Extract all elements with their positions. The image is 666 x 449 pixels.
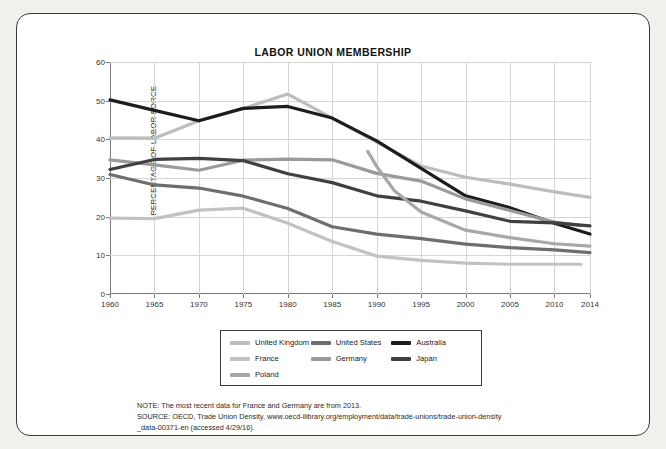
- series-line: [110, 94, 590, 197]
- x-tick-label: 2014: [581, 300, 599, 309]
- y-tick-label: 20: [96, 212, 105, 221]
- legend-color-swatch: [230, 357, 250, 361]
- x-tick-mark: [377, 294, 378, 298]
- x-tick-mark: [554, 294, 555, 298]
- chart-title: LABOR UNION MEMBERSHIP: [17, 46, 649, 58]
- x-tick-label: 1990: [368, 300, 386, 309]
- legend-item[interactable]: Japan: [391, 354, 472, 363]
- legend-item-label: Australia: [416, 338, 446, 347]
- y-tick-label: 30: [96, 174, 105, 183]
- x-tick-label: 2005: [501, 300, 519, 309]
- y-tick-label: 60: [96, 58, 105, 67]
- x-tick-mark: [154, 294, 155, 298]
- legend-item[interactable]: Germany: [311, 354, 392, 363]
- x-tick-mark: [110, 294, 111, 298]
- legend-item[interactable]: Poland: [230, 370, 311, 379]
- legend-color-swatch: [391, 357, 411, 361]
- x-tick-label: 1965: [146, 300, 164, 309]
- chart-notes: NOTE: The most recent data for France an…: [137, 401, 607, 433]
- x-tick-label: 1970: [190, 300, 208, 309]
- x-tick-mark: [421, 294, 422, 298]
- legend-color-swatch: [311, 357, 331, 361]
- legend-item-label: Japan: [416, 354, 437, 363]
- legend-item-label: United States: [336, 338, 382, 347]
- x-tick-mark: [288, 294, 289, 298]
- series-line: [110, 159, 581, 226]
- x-tick-label: 1960: [101, 300, 119, 309]
- chart-card: LABOR UNION MEMBERSHIP PERCENTAGE OF LAB…: [16, 13, 650, 436]
- x-tick-mark: [332, 294, 333, 298]
- legend-item[interactable]: France: [230, 354, 311, 363]
- y-tick-label: 50: [96, 96, 105, 105]
- x-tick-mark: [510, 294, 511, 298]
- chart-legend: United KingdomUnited StatesAustraliaFran…: [220, 330, 482, 386]
- gridline-vertical: [590, 62, 591, 294]
- x-tick-label: 1975: [234, 300, 252, 309]
- x-tick-mark: [590, 294, 591, 298]
- x-tick-label: 2000: [457, 300, 475, 309]
- legend-color-swatch: [230, 373, 250, 377]
- legend-color-swatch: [391, 341, 411, 345]
- x-tick-label: 1985: [323, 300, 341, 309]
- chart-plot-area: PERCENTAGE OF LABOR FORCE 01020304050601…: [110, 62, 590, 294]
- legend-items: United KingdomUnited StatesAustraliaFran…: [230, 338, 472, 386]
- x-tick-mark: [199, 294, 200, 298]
- x-tick-label: 1995: [412, 300, 430, 309]
- y-tick-label: 10: [96, 251, 105, 260]
- legend-color-swatch: [230, 341, 250, 345]
- x-tick-label: 2010: [546, 300, 564, 309]
- source-line-continued: _data-00371-en (accessed 4/29/16).: [137, 423, 607, 434]
- page-root: LABOR UNION MEMBERSHIP PERCENTAGE OF LAB…: [0, 0, 666, 449]
- source-line: SOURCE: OECD, Trade Union Density, www.o…: [137, 412, 607, 423]
- y-tick-label: 40: [96, 135, 105, 144]
- note-line: NOTE: The most recent data for France an…: [137, 401, 607, 412]
- x-tick-mark: [243, 294, 244, 298]
- legend-item[interactable]: United States: [311, 338, 392, 347]
- legend-item-label: United Kingdom: [255, 338, 309, 347]
- plot-canvas: 0102030405060196019651970197519801985199…: [110, 62, 590, 294]
- series-layer: [110, 62, 590, 294]
- legend-item-label: Poland: [255, 370, 279, 379]
- legend-item[interactable]: Australia: [391, 338, 472, 347]
- y-tick-label: 0: [101, 290, 105, 299]
- legend-item-label: France: [255, 354, 279, 363]
- legend-color-swatch: [311, 341, 331, 345]
- legend-item[interactable]: United Kingdom: [230, 338, 311, 347]
- legend-item-label: Germany: [336, 354, 367, 363]
- x-tick-mark: [466, 294, 467, 298]
- x-tick-label: 1980: [279, 300, 297, 309]
